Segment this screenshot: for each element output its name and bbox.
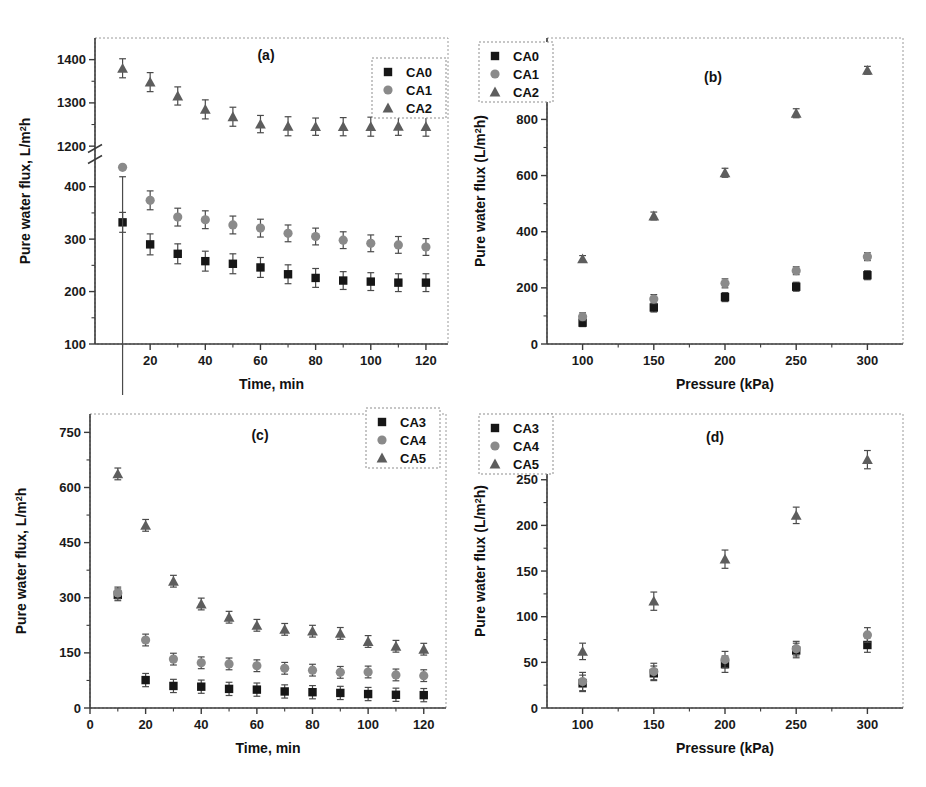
data-point-CA3-3	[197, 682, 205, 690]
y-tick-label-b-1: 200	[516, 280, 538, 295]
data-point-CA5-3	[196, 599, 207, 609]
legend-label-CA0: CA0	[513, 49, 539, 64]
data-point-CA4-0	[578, 677, 587, 686]
data-point-CA2-3	[791, 108, 802, 118]
data-point-CA2-1	[145, 77, 156, 87]
data-point-CA2-4	[227, 111, 238, 121]
data-point-CA0-1	[146, 240, 154, 248]
x-tick-label-d-3: 250	[785, 717, 807, 732]
data-point-CA2-9	[365, 121, 376, 131]
data-point-CA1-11	[421, 242, 430, 251]
y-tick-label-a-2: 300	[64, 232, 86, 247]
panel-label-a: (a)	[257, 47, 274, 63]
data-point-CA2-0	[577, 254, 588, 264]
x-tick-label-c-6: 120	[413, 717, 435, 732]
y-tick-label-c-2: 300	[59, 590, 81, 605]
data-point-CA4-legend	[377, 435, 386, 444]
data-point-CA4-5	[252, 661, 261, 670]
legend-label-CA1: CA1	[513, 67, 539, 82]
data-point-CA3-6	[280, 687, 288, 695]
data-point-CA0-6	[284, 270, 292, 278]
y-tick-label-d-1: 50	[524, 655, 538, 670]
data-point-CA2-0	[117, 63, 128, 73]
data-point-CA0-1	[650, 303, 658, 311]
x-axis-title-d: Pressure (kPa)	[676, 740, 774, 756]
data-point-CA0-legend	[491, 52, 499, 60]
data-point-CA0-3	[792, 283, 800, 291]
data-point-CA5-0	[112, 469, 123, 479]
data-point-CA1-6	[283, 229, 292, 238]
series-CA1	[118, 163, 431, 395]
x-tick-label-d-2: 200	[714, 717, 736, 732]
data-point-CA5-9	[363, 636, 374, 646]
data-point-CA4-4	[224, 659, 233, 668]
data-point-CA1-3	[201, 215, 210, 224]
panel-b: 02004006008001000100150200250300Pressure…	[463, 0, 926, 395]
y-tick-label-a-0: 100	[64, 337, 86, 352]
panel-d: 050100150200250300100150200250300Pressur…	[463, 392, 926, 787]
y-tick-label-b-4: 800	[516, 112, 538, 127]
y-tick-label-c-4: 600	[59, 480, 81, 495]
data-point-CA1-1	[146, 196, 155, 205]
y-axis-title-a: Pure water flux, L/m2h	[17, 118, 33, 265]
series-CA5	[112, 468, 429, 655]
data-point-CA5-6	[279, 624, 290, 634]
data-point-CA1-8	[339, 236, 348, 245]
series-CA5	[577, 451, 873, 660]
data-point-CA0-4	[863, 271, 871, 279]
x-tick-label-b-3: 250	[785, 353, 807, 368]
data-point-CA4-3	[792, 644, 801, 653]
data-point-CA5-10	[391, 641, 402, 651]
x-axis-title-c: Time, min	[235, 740, 300, 756]
x-tick-label-a-0: 20	[143, 353, 157, 368]
data-point-CA0-11	[422, 278, 430, 286]
data-point-CA4-4	[863, 630, 872, 639]
legend-label-CA4: CA4	[513, 439, 540, 454]
data-point-CA1-7	[311, 232, 320, 241]
y-tick-label-a-3: 400	[64, 179, 86, 194]
y-tick-label-c-3: 450	[59, 535, 81, 550]
data-point-CA4-8	[336, 668, 345, 677]
series-CA1	[578, 252, 872, 321]
y-tick-label-d-0: 0	[531, 701, 538, 716]
data-point-CA1-5	[256, 224, 265, 233]
data-point-CA2-8	[338, 121, 349, 131]
data-point-CA0-3	[201, 257, 209, 265]
data-point-CA5-1	[140, 520, 151, 530]
data-point-CA5-7	[307, 626, 318, 636]
legend-label-CA3: CA3	[400, 415, 426, 430]
legend-a: CA0CA1CA2	[372, 58, 446, 118]
data-point-CA2-4	[862, 65, 873, 75]
data-point-CA5-8	[335, 628, 346, 638]
data-point-CA3-legend	[491, 424, 499, 432]
data-point-CA2-5	[255, 119, 266, 129]
panel-label-c: (c)	[251, 427, 268, 443]
legend-label-CA4: CA4	[400, 433, 427, 448]
x-tick-label-d-0: 100	[572, 717, 594, 732]
data-point-CA0-7	[311, 274, 319, 282]
data-point-CA0-8	[339, 276, 347, 284]
data-point-CA5-2	[168, 576, 179, 586]
data-point-CA2-2	[172, 91, 183, 101]
x-tick-label-c-5: 100	[357, 717, 379, 732]
data-point-CA5-3	[791, 510, 802, 520]
data-point-CA1-legend	[490, 69, 499, 78]
data-point-CA5-5	[251, 620, 262, 630]
data-point-CA4-9	[364, 667, 373, 676]
x-tick-label-a-3: 80	[308, 353, 322, 368]
data-point-CA4-2	[720, 655, 729, 664]
y-tick-label-b-3: 600	[516, 168, 538, 183]
legend-label-CA3: CA3	[513, 421, 539, 436]
data-point-CA1-4	[228, 220, 237, 229]
x-tick-label-c-2: 40	[194, 717, 208, 732]
data-point-CA3-11	[420, 691, 428, 699]
legend-label-CA2: CA2	[513, 85, 539, 100]
x-tick-label-a-1: 40	[198, 353, 212, 368]
y-tick-label-c-0: 0	[74, 701, 81, 716]
data-point-CA3-4	[225, 685, 233, 693]
legend-label-CA1: CA1	[406, 83, 432, 98]
x-tick-label-c-3: 60	[250, 717, 264, 732]
data-point-CA4-3	[197, 658, 206, 667]
panel-label-b: (b)	[704, 69, 722, 85]
y-tick-label-d-4: 200	[516, 518, 538, 533]
